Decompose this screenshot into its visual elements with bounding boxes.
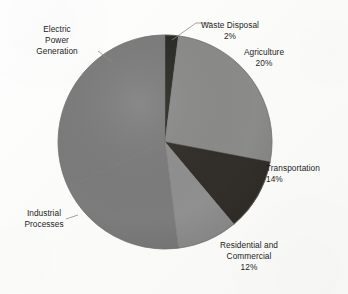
pie-label-waste-disposal-percent: 2% (182, 31, 278, 42)
pie-label-residential-and-commercial-name-line1: Residential and (202, 240, 296, 251)
pie-label-industrial-processes-name-line1: Industrial (8, 208, 80, 219)
pie-label-waste-disposal: Waste Disposal 2% (182, 20, 278, 42)
pie-label-industrial-processes: Industrial Processes (8, 208, 80, 230)
pie-label-residential-and-commercial-percent: 12% (202, 262, 296, 273)
pie-label-electric-power-generation: Electric Power Generation (18, 24, 96, 56)
pie-label-transportation-name: Transportation (266, 163, 346, 174)
pie-chart-figure: Waste Disposal 2% Agriculture 20% Transp… (0, 0, 348, 294)
pie-label-transportation: Transportation 14% (266, 163, 346, 185)
pie-label-electric-power-generation-name-line3: Generation (18, 46, 96, 57)
pie-label-agriculture-name: Agriculture (222, 47, 306, 58)
pie-label-electric-power-generation-name-line2: Power (18, 35, 96, 46)
pie-label-agriculture-percent: 20% (222, 58, 306, 69)
pie-label-waste-disposal-name: Waste Disposal (182, 20, 278, 31)
pie-label-agriculture: Agriculture 20% (222, 47, 306, 69)
pie-label-residential-and-commercial: Residential and Commercial 12% (202, 240, 296, 272)
pie-label-electric-power-generation-name-line1: Electric (18, 24, 96, 35)
pie-label-transportation-percent: 14% (266, 174, 346, 185)
pie-label-industrial-processes-name-line2: Processes (8, 219, 80, 230)
pie-label-residential-and-commercial-name-line2: Commercial (202, 251, 296, 262)
